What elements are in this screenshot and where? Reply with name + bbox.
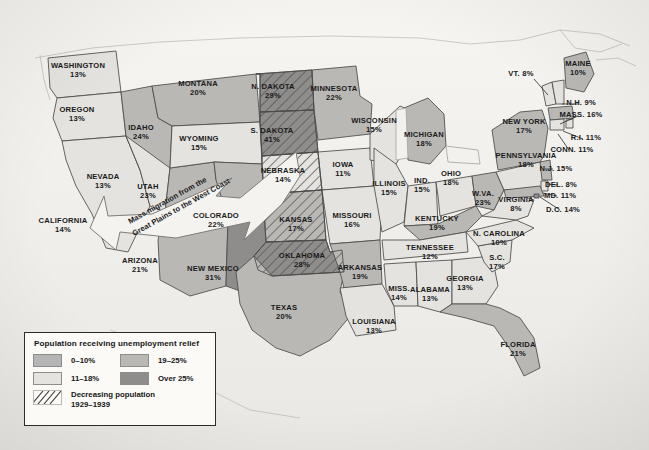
- state-label-ind: IND.15%: [414, 176, 430, 194]
- state-label-utah: UTAH23%: [137, 182, 158, 200]
- state-wyoming: [170, 122, 262, 168]
- state-percent: 18%: [518, 160, 534, 169]
- state-rhode-island: [566, 119, 573, 128]
- state-name: VIRGINIA: [498, 195, 534, 204]
- state-name: OHIO: [441, 169, 461, 178]
- legend-item-19-25: 19–25%: [120, 354, 207, 367]
- leader-label-r-i-11: R.I. 11%: [571, 133, 601, 142]
- map-legend: Population receiving unemployment relief…: [24, 332, 216, 426]
- state-percent: 29%: [265, 91, 281, 100]
- state-label-miss: MISS.14%: [388, 284, 410, 302]
- legend-swatch-over-25: [120, 372, 149, 385]
- state-percent: 20%: [276, 312, 292, 321]
- state-percent: 41%: [264, 135, 280, 144]
- state-name: WYOMING: [179, 134, 218, 143]
- state-percent: 13%: [95, 181, 111, 190]
- leader-label-del-8: DEL. 8%: [545, 180, 577, 189]
- state-percent: 14%: [55, 225, 71, 234]
- state-percent: 24%: [133, 132, 149, 141]
- state-percent: 14%: [275, 175, 291, 184]
- state-percent: 11%: [335, 169, 350, 178]
- state-label-iowa: IOWA11%: [332, 160, 353, 178]
- state-name: NEBRASKA: [261, 166, 306, 175]
- state-name: PENNSYLVANIA: [496, 151, 557, 160]
- state-percent: 14%: [391, 293, 407, 302]
- state-percent: 17%: [516, 126, 532, 135]
- state-name: ALABAMA: [410, 285, 450, 294]
- legend-label-0-10: 0–10%: [71, 356, 95, 365]
- legend-label-11-18: 11–18%: [71, 374, 99, 383]
- state-name: KENTUCKY: [415, 214, 459, 223]
- state-percent: 15%: [191, 143, 207, 152]
- legend-item-over-25: Over 25%: [120, 372, 207, 385]
- legend-hatch-line2: 1929–1939: [71, 400, 110, 409]
- legend-swatch-19-25: [120, 354, 149, 367]
- leader-label-n-h-9: N.H. 9%: [566, 98, 596, 107]
- state-percent: 21%: [510, 349, 526, 358]
- state-name: IDAHO: [128, 123, 153, 132]
- leader-label-conn-11: CONN. 11%: [550, 145, 593, 154]
- legend-label-19-25: 19–25%: [158, 356, 187, 365]
- state-percent: 20%: [190, 88, 206, 97]
- state-percent: 19%: [352, 272, 368, 281]
- state-name: N. CAROLINA: [473, 229, 525, 238]
- legend-item-0-10: 0–10%: [33, 354, 120, 367]
- leader-label-n-j-15: N.J. 15%: [540, 164, 573, 173]
- state-name: W.VA.: [472, 189, 494, 198]
- legend-swatch-11-18: [33, 372, 62, 385]
- state-name: OKLAHOMA: [279, 251, 326, 260]
- state-name: COLORADO: [193, 211, 239, 220]
- state-name: N. DAKOTA: [251, 82, 295, 91]
- state-name: LOUISIANA: [352, 317, 396, 326]
- state-percent: 10%: [570, 68, 586, 77]
- state-percent: 15%: [366, 125, 382, 134]
- state-percent: 22%: [326, 93, 342, 102]
- state-label-w-va: W.VA.23%: [472, 189, 494, 207]
- leader-label-vt-8: VT. 8%: [508, 69, 533, 78]
- state-percent: 15%: [414, 185, 430, 194]
- state-name: FLORIDA: [500, 340, 535, 349]
- state-percent: 19%: [429, 223, 445, 232]
- state-name: ILLINOIS: [372, 179, 406, 188]
- state-percent: 13%: [69, 114, 85, 123]
- state-name: CALIFORNIA: [39, 216, 88, 225]
- state-percent: 28%: [294, 260, 310, 269]
- state-name: NEW MEXICO: [187, 264, 239, 273]
- leader-label-md-11: MD. 11%: [544, 191, 576, 200]
- state-percent: 18%: [416, 139, 432, 148]
- state-percent: 21%: [132, 265, 148, 274]
- state-oregon: [53, 92, 126, 141]
- state-name: TENNESSEE: [406, 243, 454, 252]
- state-name: IOWA: [332, 160, 353, 169]
- state-percent: 23%: [140, 191, 156, 200]
- state-name: S.C.: [489, 253, 505, 262]
- legend-hatch-text: Decreasing population 1929–1939: [71, 390, 155, 409]
- state-name: MONTANA: [178, 79, 218, 88]
- state-name: TEXAS: [271, 303, 297, 312]
- legend-swatch-0-10: [33, 354, 62, 367]
- leader-label-mass-16: MASS. 16%: [559, 110, 602, 119]
- state-name: NEVADA: [87, 172, 120, 181]
- legend-swatch-hatch: [33, 390, 62, 405]
- state-label-ohio: OHIO18%: [441, 169, 461, 187]
- state-percent: 13%: [422, 294, 438, 303]
- state-percent: 18%: [443, 178, 459, 187]
- state-name: IND.: [414, 176, 430, 185]
- state-percent: 22%: [208, 220, 224, 229]
- state-label-s-c: S.C.17%: [489, 253, 505, 271]
- legend-label-over-25: Over 25%: [158, 374, 194, 383]
- state-percent: 13%: [457, 283, 473, 292]
- state-percent: 23%: [475, 198, 491, 207]
- state-percent: 31%: [205, 273, 221, 282]
- state-name: MISS.: [388, 284, 410, 293]
- legend-row-1: 0–10% 19–25%: [33, 354, 207, 367]
- state-percent: 13%: [366, 326, 382, 335]
- state-dc: [534, 194, 539, 198]
- state-name: KANSAS: [279, 215, 312, 224]
- map-container: Mass migration from the Great Plains to …: [0, 0, 649, 450]
- state-name: OREGON: [60, 105, 95, 114]
- state-name: ARIZONA: [122, 256, 158, 265]
- state-name: S. DAKOTA: [250, 126, 293, 135]
- legend-item-11-18: 11–18%: [33, 372, 120, 385]
- state-percent: 15%: [381, 188, 397, 197]
